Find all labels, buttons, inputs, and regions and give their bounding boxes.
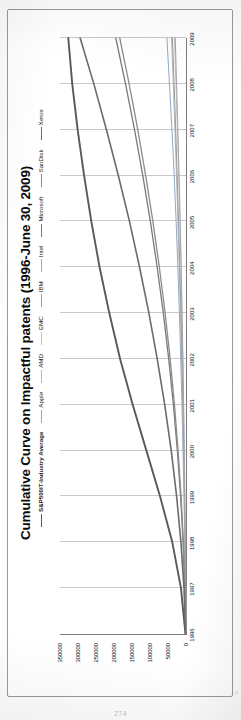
legend-swatch-icon [41, 127, 42, 140]
series-line [80, 38, 186, 634]
x-tick-label: 2005 [189, 216, 195, 229]
y-tick-label: 300000 [75, 643, 81, 662]
x-tick-label: 2003 [189, 307, 195, 320]
chart-legend: S&P500IT-Industry AverageAppleAMDEMCIBMI… [38, 27, 58, 527]
x-tick-label: 2008 [189, 78, 195, 91]
legend-swatch-icon [41, 370, 42, 383]
legend-label: S&P500IT-Industry Average [38, 432, 44, 512]
chart: Cumulative Curve on Impactful patents (1… [14, 19, 226, 687]
legend-item-ibm: IBM [38, 281, 44, 307]
x-tick-label: 1999 [189, 491, 195, 504]
legend-swatch-icon [41, 514, 42, 527]
rotated-chart-container: Cumulative Curve on Impactful patents (1… [14, 19, 226, 687]
legend-item-amd: AMD [38, 354, 44, 383]
x-tick-label: 1996 [189, 628, 195, 641]
legend-item-intel: Intel [38, 246, 44, 273]
legend-label: EMC [38, 316, 44, 330]
legend-label: Xerox [38, 109, 44, 125]
legend-label: IBM [38, 281, 44, 292]
legend-label: SanDisk [38, 149, 44, 172]
y-axis-tick-labels: 0500001000001500002000002500003000003500… [60, 639, 186, 687]
legend-label: Apple [38, 392, 44, 408]
y-tick-label: 150000 [129, 643, 135, 662]
legend-label: Microsoft [38, 196, 44, 221]
y-tick-label: 0 [183, 643, 189, 646]
legend-item-xerox: Xerox [38, 109, 44, 140]
x-tick-label: 2009 [189, 32, 195, 45]
x-tick-label: 2006 [189, 170, 195, 183]
legend-swatch-icon [41, 410, 42, 423]
x-tick-label: 1998 [189, 537, 195, 550]
legend-swatch-icon [41, 294, 42, 307]
y-tick-label: 100000 [147, 643, 153, 662]
x-axis-tick-labels: 1996199719981999200020012002200320042005… [188, 39, 206, 635]
x-tick-label: 2002 [189, 353, 195, 366]
legend-label: AMD [38, 354, 44, 368]
y-tick-label: 200000 [111, 643, 117, 662]
page-number: 274 [0, 710, 241, 717]
chart-title: Cumulative Curve on Impactful patents (1… [18, 19, 33, 687]
legend-swatch-icon [41, 174, 42, 187]
x-tick-label: 1997 [189, 582, 195, 595]
y-tick-label: 350000 [57, 643, 63, 662]
y-tick-label: 250000 [93, 643, 99, 662]
x-tick-label: 2001 [189, 399, 195, 412]
legend-item-s-p500it-industry-average: S&P500IT-Industry Average [38, 432, 44, 527]
legend-swatch-icon [41, 332, 42, 345]
legend-item-apple: Apple [38, 392, 44, 423]
legend-swatch-icon [41, 259, 42, 272]
series-lines [60, 38, 186, 634]
scan-speck [235, 691, 238, 694]
x-tick-label: 2004 [189, 262, 195, 275]
legend-item-microsoft: Microsoft [38, 196, 44, 236]
scanned-page: Cumulative Curve on Impactful patents (1… [0, 0, 241, 720]
legend-label: Intel [38, 246, 44, 258]
legend-item-sandisk: SanDisk [38, 149, 44, 187]
figure-frame: Cumulative Curve on Impactful patents (1… [7, 9, 233, 697]
x-tick-label: 2007 [189, 124, 195, 137]
plot-area [60, 38, 187, 635]
x-tick-label: 2000 [189, 445, 195, 458]
legend-swatch-icon [41, 224, 42, 237]
legend-item-emc: EMC [38, 316, 44, 345]
y-tick-label: 50000 [165, 643, 171, 659]
